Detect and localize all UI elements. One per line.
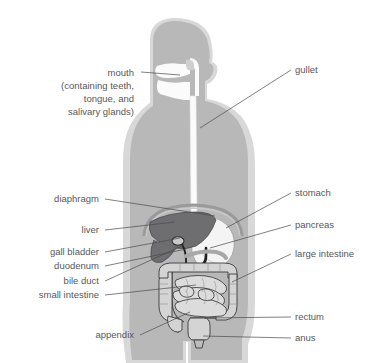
label-rectum-line-0: rectum [295, 311, 324, 322]
label-pancreas-line-0: pancreas [295, 219, 334, 230]
label-pancreas[interactable]: pancreas [295, 219, 334, 230]
small-intestine-group [173, 276, 227, 318]
label-gullet-line-0: gullet [295, 64, 318, 75]
label-gullet[interactable]: gullet [295, 64, 318, 75]
label-rectum[interactable]: rectum [295, 311, 324, 322]
label-bile-duct[interactable]: bile duct [64, 275, 100, 286]
label-duodenum[interactable]: duodenum [54, 260, 99, 271]
label-stomach-line-0: stomach [295, 187, 331, 198]
label-duodenum-line-0: duodenum [54, 260, 99, 271]
label-large-intestine[interactable]: large intestine [295, 248, 354, 259]
label-diaphragm[interactable]: diaphragm [54, 193, 99, 204]
label-liver[interactable]: liver [82, 224, 99, 235]
small-intestine-coils [173, 276, 227, 318]
label-small-intestine[interactable]: small intestine [39, 289, 99, 300]
label-anus[interactable]: anus [295, 332, 316, 343]
label-mouth-line-0: mouth [108, 67, 134, 78]
label-bile-duct-line-0: bile duct [64, 275, 100, 286]
digestive-system-diagram: mouth(containing teeth,tongue, andsaliva… [0, 0, 374, 363]
label-gall-bladder[interactable]: gall bladder [50, 246, 99, 257]
anus-shape [194, 340, 204, 348]
label-large-intestine-line-0: large intestine [295, 248, 354, 259]
label-anus-line-0: anus [295, 332, 316, 343]
gullet-group [190, 96, 197, 218]
label-diaphragm-line-0: diaphragm [54, 193, 99, 204]
label-stomach[interactable]: stomach [295, 187, 331, 198]
anus-group [194, 340, 204, 348]
label-gall-bladder-line-0: gall bladder [50, 246, 99, 257]
label-mouth-line-1: (containing teeth, [61, 80, 134, 91]
label-small-intestine-line-0: small intestine [39, 289, 99, 300]
label-appendix[interactable]: appendix [95, 329, 134, 340]
label-liver-line-0: liver [82, 224, 99, 235]
label-mouth-line-3: salivary glands) [68, 106, 134, 117]
rectum-shape [188, 318, 210, 340]
label-appendix-line-0: appendix [95, 329, 134, 340]
rectum-group [188, 318, 210, 340]
diagram-canvas: mouth(containing teeth,tongue, andsaliva… [0, 0, 374, 363]
label-mouth[interactable]: mouth(containing teeth,tongue, andsaliva… [61, 67, 134, 117]
label-mouth-line-2: tongue, and [84, 93, 134, 104]
